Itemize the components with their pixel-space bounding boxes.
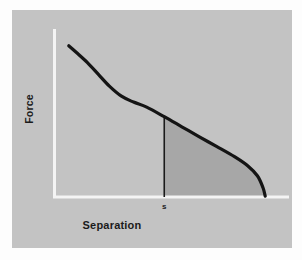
y-axis-label: Force bbox=[23, 79, 35, 139]
shaded-area-fill-under-curve bbox=[163, 116, 265, 197]
plot-svg bbox=[12, 10, 292, 248]
figure-container: Force s Separation bbox=[0, 0, 302, 260]
x-axis-label: Separation bbox=[12, 219, 212, 231]
plot-panel: Force s Separation bbox=[12, 10, 292, 248]
separation-tick-label: s bbox=[144, 202, 184, 211]
